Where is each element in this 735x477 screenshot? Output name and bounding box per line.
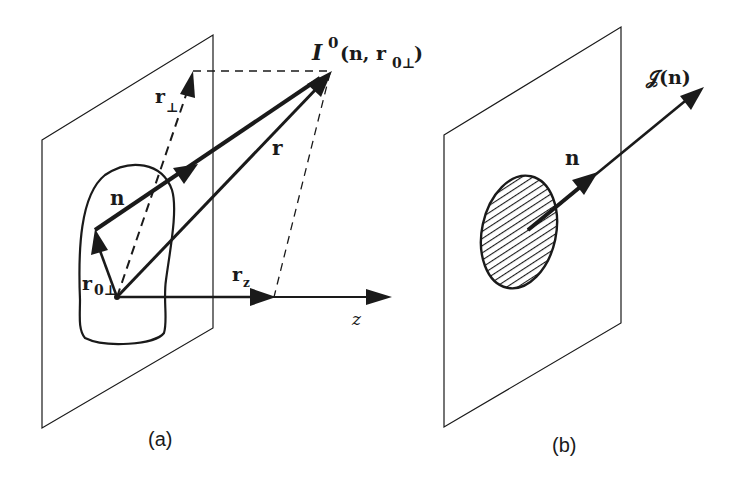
caption-b: (b) xyxy=(552,434,576,456)
r-vector xyxy=(117,71,332,297)
n-vector-b xyxy=(528,87,704,230)
panel-b: n 𝒥(n) (b) xyxy=(444,27,704,456)
label-z-axis: z xyxy=(351,309,362,329)
label-r-perp: r xyxy=(155,85,166,107)
label-n-b: n xyxy=(565,146,580,170)
dashed-vertical-to-rz xyxy=(274,73,330,297)
figure-canvas: I 0 (n, r 0⊥ ) r ⊥ n r r 0⊥ r z z (a) n … xyxy=(0,0,735,477)
rz-vector xyxy=(117,288,276,306)
n-vector-a xyxy=(95,78,320,230)
label-r-perp-subscript: ⊥ xyxy=(166,100,178,115)
label-r0perp: r xyxy=(82,272,93,294)
label-I-close: ) xyxy=(414,42,423,64)
label-r: r xyxy=(272,136,283,160)
panel-a: I 0 (n, r 0⊥ ) r ⊥ n r r 0⊥ r z z (a) xyxy=(42,34,423,450)
label-n-a: n xyxy=(110,186,125,210)
hatched-aperture xyxy=(471,169,567,296)
label-intensity: I 0 (n, r 0⊥ ) xyxy=(311,34,423,71)
label-radiance-function: 𝒥(n) xyxy=(645,66,691,89)
label-I-args: (n, r xyxy=(340,42,387,64)
label-I-superscript: 0 xyxy=(328,34,338,52)
label-I: I xyxy=(311,39,323,65)
label-r0perp-subscript: 0⊥ xyxy=(94,282,117,298)
label-I-subscript: 0⊥ xyxy=(392,55,415,71)
aperture-outline-a xyxy=(79,165,174,344)
label-rz: r xyxy=(232,263,243,285)
caption-a: (a) xyxy=(148,428,172,450)
label-rz-subscript: z xyxy=(243,276,250,290)
